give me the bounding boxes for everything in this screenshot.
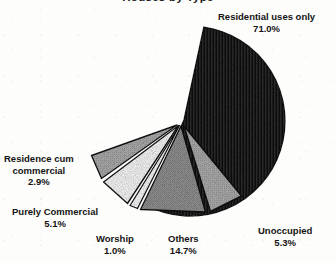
pie-label-worship-value: 1.0%	[96, 245, 134, 257]
pie-label-unoccupied-value: 5.3%	[258, 237, 312, 249]
pie-label-purely-commercial-value: 5.1%	[12, 218, 98, 230]
pie-label-unoccupied-name: Unoccupied	[258, 225, 312, 236]
pie-label-residential-uses-only-value: 71.0%	[218, 23, 315, 35]
pie-label-residence-cum-commercial: Residence cum commercial 2.9%	[4, 153, 74, 188]
pie-label-worship: Worship 1.0%	[96, 233, 134, 256]
pie-label-unoccupied: Unoccupied 5.3%	[258, 225, 312, 248]
pie-label-residential-uses-only: Residential uses only 71.0%	[218, 11, 315, 34]
pie-label-residence-cum-commercial-value: 2.9%	[4, 176, 74, 188]
pie-label-others-name: Others	[168, 233, 199, 244]
pie-label-worship-name: Worship	[96, 233, 134, 244]
pie-label-residence-cum-commercial-name: Residence cum	[4, 153, 74, 164]
pie-label-purely-commercial-name: Purely Commercial	[12, 206, 98, 217]
pie-label-residential-uses-only-name: Residential uses only	[218, 11, 315, 22]
pie-label-purely-commercial: Purely Commercial 5.1%	[12, 206, 98, 229]
pie-label-others: Others 14.7%	[168, 233, 199, 256]
pie-label-others-value: 14.7%	[168, 245, 199, 257]
pie-label-residence-cum-commercial-name2: commercial	[4, 165, 74, 177]
